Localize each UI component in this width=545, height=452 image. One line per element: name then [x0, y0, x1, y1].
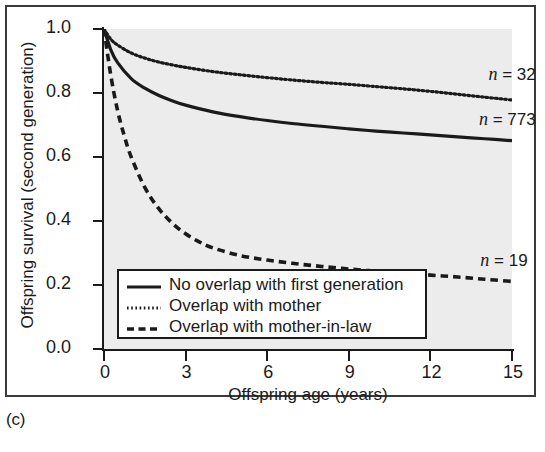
panel-label: (c) — [6, 410, 25, 430]
x-axis-tick-label: 9 — [330, 362, 370, 383]
x-axis-tick — [103, 351, 105, 361]
series-n-label: n = 19 — [378, 250, 528, 271]
y-axis-line — [102, 27, 104, 351]
x-axis-tick-label: 6 — [248, 362, 288, 383]
legend-swatch-dotted-icon — [126, 300, 162, 312]
y-axis-title: Offspring survival (second generation) — [18, 20, 38, 350]
y-axis-tick-label: 1.0 — [11, 17, 71, 38]
y-axis-tick — [93, 220, 102, 222]
y-axis-tick-label: 0.6 — [11, 145, 71, 166]
x-axis-tick — [511, 351, 513, 361]
series-n-label: n = 773 — [386, 109, 536, 130]
x-axis-title: Offspring age (years) — [104, 385, 512, 405]
x-axis-tick-label: 15 — [493, 362, 533, 383]
y-axis-tick — [93, 28, 102, 30]
x-axis-tick — [185, 351, 187, 361]
x-axis-tick — [429, 351, 431, 361]
legend-swatch-dashed-icon — [126, 321, 162, 333]
legend-swatch-solid-icon — [126, 279, 162, 291]
x-axis-tick-label: 3 — [167, 362, 207, 383]
legend-item-label: Overlap with mother — [169, 297, 321, 314]
x-axis-tick — [266, 351, 268, 361]
y-axis-tick-label: 0.4 — [11, 209, 71, 230]
x-axis-tick — [348, 351, 350, 361]
y-axis-tick — [93, 284, 102, 286]
x-axis-line — [102, 349, 514, 351]
y-axis-tick — [93, 92, 102, 94]
x-axis-tick-label: 0 — [85, 362, 125, 383]
legend: No overlap with first generation Overlap… — [117, 269, 427, 339]
y-axis-tick-label: 0.8 — [11, 81, 71, 102]
y-axis-tick-label: 0.0 — [11, 337, 71, 358]
list-item[interactable]: No overlap with first generation — [126, 274, 418, 295]
legend-item-label: Overlap with mother-in-law — [169, 318, 371, 335]
list-item[interactable]: Overlap with mother — [126, 295, 418, 316]
x-axis-tick-label: 12 — [411, 362, 451, 383]
series-n-label: n = 32 — [386, 64, 536, 85]
figure-frame: Offspring survival (second generation) 0… — [5, 5, 536, 397]
y-axis-tick — [93, 348, 102, 350]
y-axis-tick-label: 0.2 — [11, 273, 71, 294]
list-item[interactable]: Overlap with mother-in-law — [126, 316, 418, 337]
y-axis-tick — [93, 156, 102, 158]
legend-item-label: No overlap with first generation — [169, 276, 403, 293]
